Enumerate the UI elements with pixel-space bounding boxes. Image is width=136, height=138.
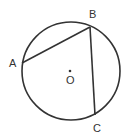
point-label-a: A <box>9 57 17 69</box>
center-label: O <box>66 74 75 86</box>
center-point <box>69 70 72 73</box>
chord-ab <box>22 27 90 63</box>
point-label-c: C <box>93 122 101 134</box>
chord-bc <box>90 27 95 115</box>
circle-diagram: O A B C <box>0 0 136 138</box>
point-label-b: B <box>89 8 96 20</box>
